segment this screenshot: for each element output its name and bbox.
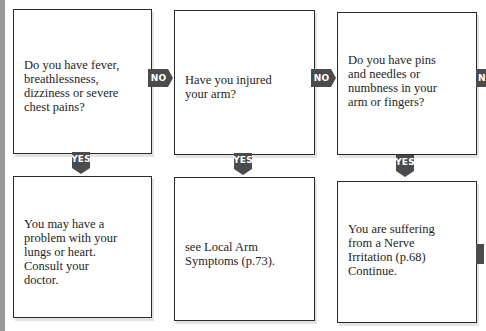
yes-arrow-badge: YES	[234, 153, 252, 169]
question-text: Do you have fever, breathlessness, dizzi…	[24, 58, 143, 114]
yes-arrow-badge: YES	[396, 155, 414, 171]
question-text: Have you injured your arm?	[185, 73, 306, 101]
no-arrow-badge: NO	[311, 69, 331, 87]
outcome-box-nerve-irritation: You are suffering from a Nerve Irritatio…	[337, 181, 477, 323]
yes-label: YES	[71, 154, 91, 164]
question-text: Do you have pins and needles or numbness…	[348, 53, 468, 109]
yes-label: YES	[233, 155, 253, 165]
no-label: NO	[314, 73, 330, 83]
no-arrow-badge-partial: N	[476, 69, 486, 87]
question-box-pins-needles: Do you have pins and needles or numbness…	[337, 12, 477, 155]
outcome-text: see Local Arm Symptoms (p.73).	[185, 240, 306, 268]
outcome-box-lungs-heart: You may have a problem with your lungs o…	[13, 176, 152, 318]
continue-arrow-badge-partial	[476, 244, 484, 264]
no-label-partial: N	[478, 73, 486, 83]
outcome-text: You may have a problem with your lungs o…	[24, 217, 143, 287]
no-arrow-badge: NO	[148, 69, 168, 87]
outcome-text: You are suffering from a Nerve Irritatio…	[348, 222, 468, 278]
question-box-fever: Do you have fever, breathlessness, dizzi…	[13, 9, 152, 154]
yes-label: YES	[395, 157, 415, 167]
no-label: NO	[151, 73, 167, 83]
outcome-box-local-arm: see Local Arm Symptoms (p.73).	[174, 177, 315, 321]
yes-arrow-badge: YES	[72, 152, 90, 168]
page-edge-strip	[0, 0, 5, 331]
question-box-arm-injury: Have you injured your arm?	[174, 10, 315, 155]
